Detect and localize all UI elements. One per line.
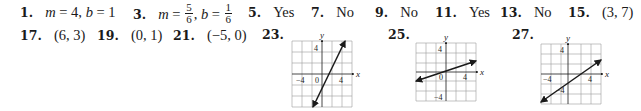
- answer-23-label: 23.: [262, 27, 284, 43]
- tick-x-4: 4: [588, 75, 592, 84]
- answer-text: No: [534, 4, 552, 20]
- answer-number: 17.: [20, 28, 42, 43]
- answer-text: Yes: [273, 4, 294, 20]
- answer-number: 7.: [311, 5, 324, 20]
- answer-text: No: [336, 4, 354, 20]
- answer-15: 15. (3, 7): [568, 4, 633, 21]
- graph-25-svg: y x 4 0 4 −4: [414, 33, 486, 105]
- x-axis-label: x: [604, 69, 609, 79]
- answer-text: (6, 3): [54, 27, 85, 43]
- answer-number: 25.: [388, 27, 410, 42]
- m-value: = 4,: [56, 4, 86, 20]
- denominator: 6: [185, 14, 193, 25]
- answer-text: (−5, 0): [207, 27, 247, 43]
- answer-17: 17. (6, 3): [20, 27, 85, 44]
- var-m: m: [158, 6, 168, 22]
- answer-number: 27.: [512, 27, 534, 42]
- answer-number: 3.: [133, 7, 146, 22]
- y-axis-label: y: [319, 30, 324, 40]
- fraction-m: 56: [185, 2, 193, 25]
- var-m: m: [45, 4, 55, 20]
- tick-x-4: 4: [339, 76, 343, 85]
- y-axis-label: y: [565, 33, 570, 43]
- answer-number: 11.: [435, 5, 457, 20]
- answer-number: 9.: [375, 5, 388, 20]
- denominator: 6: [225, 14, 233, 25]
- answer-number: 19.: [97, 28, 119, 43]
- answer-25-label: 25.: [388, 27, 410, 43]
- graph-27-svg: y x 4 −4 4 −4: [539, 34, 611, 108]
- tick-x-4: 4: [463, 73, 467, 82]
- x-axis-label: x: [355, 69, 360, 79]
- answer-1: 1. m = 4, b = 1: [20, 4, 116, 21]
- fraction-b: 16: [225, 2, 233, 25]
- tick-origin: 0: [315, 76, 319, 85]
- answer-5: 5. Yes: [248, 4, 294, 21]
- tick-y-4: 4: [314, 44, 318, 53]
- answer-number: 15.: [568, 5, 590, 20]
- answer-text: m = 4, b = 1: [45, 4, 115, 20]
- answer-13: 13. No: [500, 4, 552, 21]
- var-b: b: [86, 4, 93, 20]
- tick-y-4: 4: [438, 45, 442, 54]
- answer-number: 23.: [262, 27, 284, 42]
- answer-19: 19. (0, 1): [97, 27, 162, 44]
- answer-number: 1.: [20, 5, 33, 20]
- answer-text: (3, 7): [602, 4, 633, 20]
- answer-3: 3. m = 56, b = 16: [133, 4, 233, 27]
- comma: ,: [194, 6, 201, 22]
- answer-7: 7. No: [311, 4, 354, 21]
- answer-text: (0, 1): [131, 27, 162, 43]
- answer-text: m = 56, b = 16: [158, 6, 233, 22]
- answer-21: 21. (−5, 0): [173, 27, 246, 44]
- tick-y-4: 4: [560, 46, 564, 55]
- tick-x-neg4: −4: [543, 75, 552, 84]
- answer-text: No: [400, 4, 418, 20]
- answer-number: 5.: [248, 5, 261, 20]
- graph-23-svg: y x 4 −4 0 4: [290, 31, 360, 111]
- b-value: = 1: [93, 4, 116, 20]
- graph-25: y x 4 0 4 −4: [414, 33, 486, 105]
- answer-9: 9. No: [375, 4, 418, 21]
- tick-origin: 0: [439, 73, 443, 82]
- graph-27: y x 4 −4 4 −4: [539, 34, 611, 108]
- tick-x-neg4: −4: [296, 76, 305, 85]
- answer-number: 13.: [500, 5, 522, 20]
- x-axis-label: x: [479, 67, 484, 77]
- tick-y-neg4: −4: [556, 86, 565, 95]
- b-equals: =: [208, 6, 223, 22]
- y-axis-label: y: [443, 32, 448, 42]
- answer-27-label: 27.: [512, 27, 534, 43]
- answer-11: 11. Yes: [435, 4, 490, 21]
- answer-text: Yes: [469, 4, 490, 20]
- tick-y-neg4: −4: [434, 93, 443, 102]
- graph-23: y x 4 −4 0 4: [290, 31, 360, 111]
- m-equals: =: [169, 6, 184, 22]
- answer-number: 21.: [173, 28, 195, 43]
